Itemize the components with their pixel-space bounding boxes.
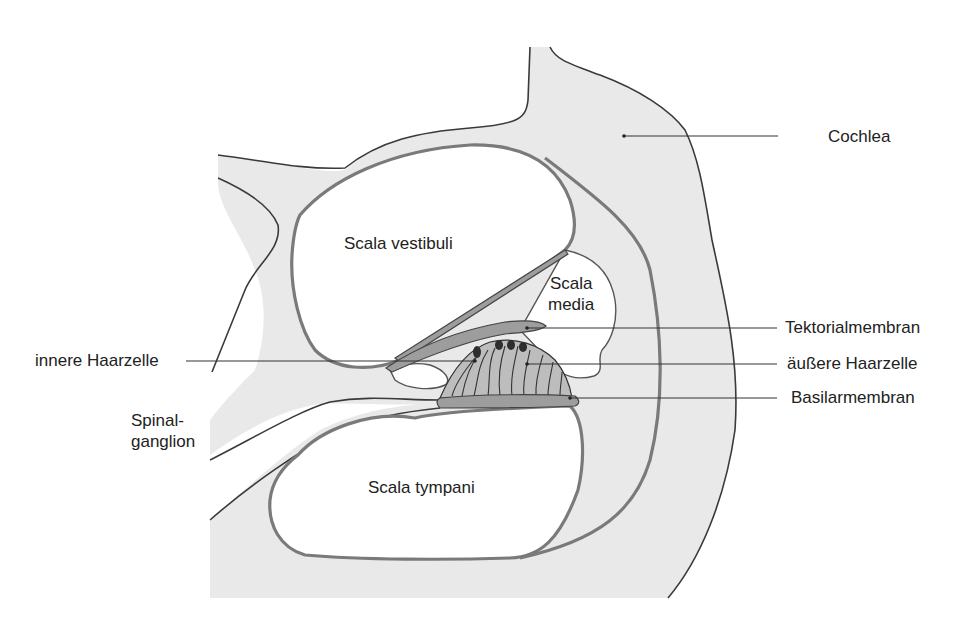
label-aeussere-haarzelle: äußere Haarzelle	[787, 354, 917, 374]
inner-hair-cell	[473, 346, 481, 358]
basilar-membrane	[437, 395, 579, 408]
label-cochlea: Cochlea	[828, 127, 890, 147]
outer-hair-cell-3	[519, 342, 527, 352]
outer-hair-cell-2	[507, 340, 515, 350]
spinalganglion-line2: ganglion	[131, 431, 195, 452]
region-label-scala-tympani: Scala tympani	[368, 477, 475, 498]
cochlea-diagram	[0, 0, 970, 624]
scala-media-line1: Scala	[548, 273, 594, 294]
label-tektorialmembran: Tektorialmembran	[785, 318, 920, 338]
scala-media-line2: media	[548, 294, 594, 315]
outer-hair-cell-1	[495, 340, 503, 350]
label-spinalganglion: Spinal- ganglion	[131, 410, 195, 452]
label-basilarmembran: Basilarmembran	[791, 388, 915, 408]
spinalganglion-line1: Spinal-	[131, 410, 195, 431]
region-label-scala-vestibuli: Scala vestibuli	[344, 233, 453, 254]
label-innere-haarzelle: innere Haarzelle	[35, 351, 159, 371]
region-label-scala-media: Scala media	[548, 273, 594, 315]
